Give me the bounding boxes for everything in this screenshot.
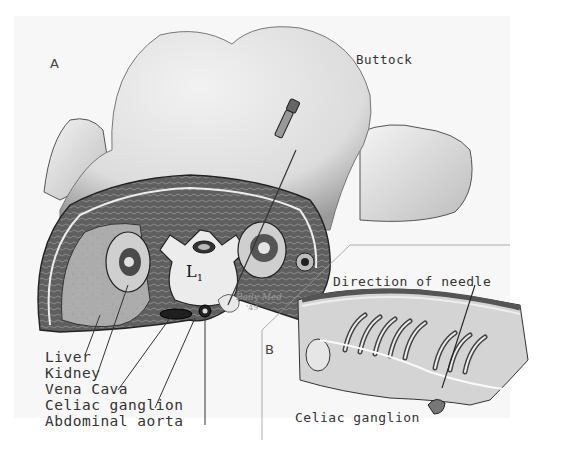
spine-lateral-view — [298, 285, 528, 414]
artist-signature: Baily Med — [235, 292, 282, 302]
direction-of-needle-label: Direction of needle — [333, 275, 491, 288]
artist-year: '49 — [246, 303, 258, 312]
legend-vena-cava: Vena Cava — [45, 382, 183, 397]
legend-celiac-ganglion: Celiac ganglion — [45, 398, 183, 413]
legend-liver: Liver — [45, 350, 183, 365]
panel-b-letter: B — [265, 342, 274, 357]
buttock-label: Buttock — [356, 54, 412, 67]
celiac-ganglion-b — [428, 399, 445, 414]
vertebra-letter: L — [186, 262, 197, 281]
panel-a-legend: Liver Kidney Vena Cava Celiac ganglion A… — [45, 350, 183, 430]
panel-a-letter: A — [50, 56, 59, 71]
vertebra-l1-label: L1 — [186, 262, 203, 283]
right-drape — [360, 125, 472, 222]
vertebra-number: 1 — [197, 272, 203, 283]
vena-cava — [160, 309, 192, 319]
celiac-ganglion-b-label: Celiac ganglion — [295, 411, 420, 424]
legend-abdominal-aorta: Abdominal aorta — [45, 414, 183, 429]
legend-kidney: Kidney — [45, 366, 183, 381]
